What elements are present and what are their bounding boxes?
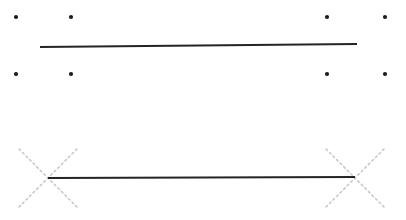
diagram-svg bbox=[0, 0, 406, 220]
dot-top-right-1 bbox=[325, 15, 329, 19]
lower-line bbox=[48, 177, 355, 178]
dot-mid-left-2 bbox=[69, 72, 73, 76]
dot-top-left-2 bbox=[69, 15, 73, 19]
dot-mid-right-1 bbox=[325, 72, 329, 76]
dot-top-left-1 bbox=[14, 15, 18, 19]
dot-top-right-2 bbox=[383, 15, 387, 19]
diagram-canvas bbox=[0, 0, 406, 220]
dot-mid-right-2 bbox=[383, 72, 387, 76]
upper-line bbox=[40, 44, 357, 47]
dot-mid-left-1 bbox=[14, 72, 18, 76]
line-segment-group bbox=[40, 44, 357, 178]
